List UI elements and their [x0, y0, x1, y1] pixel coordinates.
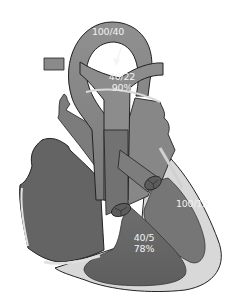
aorta-pressure-label: 100/40 — [86, 26, 130, 37]
pulmonary-artery-saturation-label: 90% — [100, 82, 144, 93]
right-ventricle-saturation-label: 78% — [122, 243, 166, 254]
shunt-arrow-head — [113, 58, 120, 66]
left-ventricle-pressure-label: 100/15 — [170, 198, 214, 209]
left-pulmonary-branch — [44, 58, 64, 70]
right-ventricle-pressure-label: 40/5 — [122, 232, 166, 243]
pulmonary-artery-pressure-label: 40/22 — [100, 71, 144, 82]
shunt-arrow-icon — [117, 46, 122, 60]
